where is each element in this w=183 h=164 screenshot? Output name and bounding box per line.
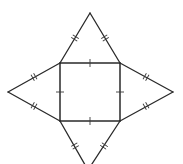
triangle-edge-double-tick-marks	[31, 35, 149, 149]
left-triangle	[8, 63, 60, 121]
base-square	[60, 63, 120, 121]
square-side-tick-marks	[56, 59, 124, 125]
top-triangle	[60, 13, 120, 63]
pyramid-net-diagram	[0, 0, 183, 164]
bottom-triangle	[60, 121, 120, 164]
right-triangle	[120, 63, 173, 121]
